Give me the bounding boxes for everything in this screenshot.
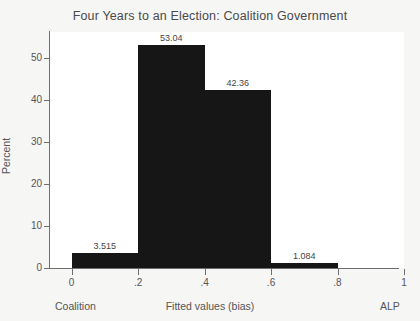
x-axis-tick xyxy=(404,269,405,275)
y-axis-tick xyxy=(44,184,49,185)
x-axis-tick-label: 0 xyxy=(57,277,87,288)
x-axis-tick-label: .6 xyxy=(256,277,286,288)
chart-figure: Four Years to an Election: Coalition Gov… xyxy=(0,0,420,321)
y-axis-tick-label: 30 xyxy=(18,136,42,147)
x-axis-tick xyxy=(205,269,206,275)
x-axis-line xyxy=(44,268,399,269)
y-axis-title: Percent xyxy=(0,138,12,174)
x-axis-right-endpoint-label: ALP xyxy=(380,300,400,312)
x-axis-tick xyxy=(271,269,272,275)
y-axis-tick xyxy=(44,268,49,269)
x-axis-tick-label: .4 xyxy=(190,277,220,288)
x-axis-tick xyxy=(338,269,339,275)
x-axis-tick xyxy=(72,269,73,275)
bar-value-label: 1.084 xyxy=(282,251,326,261)
bar-value-label: 53.04 xyxy=(149,33,193,43)
x-axis-left-endpoint-label: Coalition xyxy=(55,300,96,312)
x-axis-tick-label: .2 xyxy=(123,277,153,288)
y-axis-tick xyxy=(44,100,49,101)
chart-title: Four Years to an Election: Coalition Gov… xyxy=(0,9,420,23)
y-axis-tick-label: 40 xyxy=(18,94,42,105)
x-axis-tick-label: 1 xyxy=(389,277,419,288)
bar xyxy=(271,263,337,268)
y-axis-tick-label: 50 xyxy=(18,52,42,63)
x-axis-tick-label: .8 xyxy=(323,277,353,288)
y-axis-tick-label: 0 xyxy=(18,262,42,273)
bar-value-label: 42.36 xyxy=(216,78,260,88)
y-axis-line xyxy=(49,31,50,269)
bar xyxy=(72,253,138,268)
y-axis-tick xyxy=(44,142,49,143)
bar xyxy=(205,90,271,268)
y-axis-tick xyxy=(44,58,49,59)
y-axis-tick-label: 10 xyxy=(18,220,42,231)
bar-value-label: 3.515 xyxy=(83,241,127,251)
x-axis-tick xyxy=(138,269,139,275)
y-axis-tick xyxy=(44,226,49,227)
y-axis-tick-label: 20 xyxy=(18,178,42,189)
bar xyxy=(138,45,204,268)
